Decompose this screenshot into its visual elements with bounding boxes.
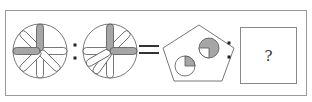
petal-gray-up	[37, 24, 44, 51]
petal-gray-left	[13, 48, 40, 55]
colon-symbol	[74, 44, 77, 60]
answer-box[interactable]: ?	[241, 28, 297, 84]
inner-circle-one-quarter	[175, 56, 195, 76]
inner-circle-three-quarter	[199, 38, 219, 58]
question-mark: ?	[264, 47, 272, 65]
equals-symbol	[139, 45, 159, 54]
petal-gray-right	[110, 48, 137, 55]
figure-a-circle	[13, 24, 67, 78]
figure-c-pentagon	[163, 25, 234, 81]
figure-b-circle	[83, 24, 137, 78]
petal-gray-up	[107, 24, 114, 51]
analogy-puzzle: ?	[0, 0, 312, 102]
